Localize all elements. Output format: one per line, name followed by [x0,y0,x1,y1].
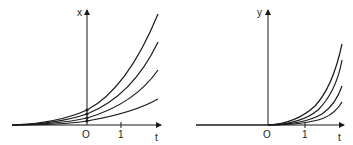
tick-label-1: 1 [302,129,308,140]
tick-label-1: 1 [118,129,124,140]
origin-label: O [82,129,90,140]
curve-4 [12,99,158,125]
intercept-dot [85,116,88,119]
intercept-dot [85,112,88,115]
curve-3 [12,70,158,125]
curve-1 [268,44,342,125]
origin-label: O [263,129,271,140]
intercept-dot [85,108,88,111]
left-panel: x O 1 t [12,7,161,143]
figure: x O 1 t y O 1 t [0,0,353,145]
intercept-dot [85,119,88,122]
curve-2 [12,42,158,125]
curve-2 [268,60,342,125]
right-panel: y O 1 t [196,7,344,143]
x-axis-label: t [155,132,158,143]
y-axis-label: y [257,7,262,18]
y-axis-label: x [77,7,82,18]
x-axis-label: t [338,132,341,143]
